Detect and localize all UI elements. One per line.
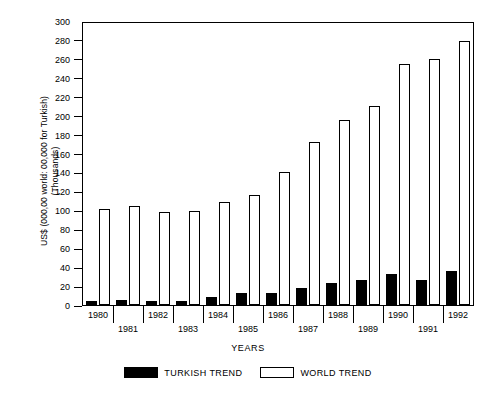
y-axis-tick-label: 120 bbox=[44, 188, 70, 197]
y-axis-tick bbox=[74, 135, 82, 136]
x-axis-label-1980: 1980 bbox=[78, 310, 118, 320]
bars-layer bbox=[83, 23, 473, 305]
x-axis-label-1989: 1989 bbox=[348, 324, 388, 334]
y-axis-tick-label: 300 bbox=[44, 18, 70, 27]
bar-turkish-1983 bbox=[176, 301, 188, 305]
x-axis-label-1987: 1987 bbox=[288, 324, 328, 334]
bar-turkish-1982 bbox=[146, 301, 158, 305]
bar-world-1986 bbox=[279, 172, 291, 305]
x-axis-label-1984: 1984 bbox=[198, 310, 238, 320]
bar-turkish-1985 bbox=[236, 293, 248, 305]
bar-world-1989 bbox=[369, 106, 381, 305]
bar-group bbox=[293, 23, 323, 305]
legend-label-world: WORLD TREND bbox=[300, 368, 371, 378]
y-axis-tick-label: 200 bbox=[44, 112, 70, 121]
bar-world-1982 bbox=[159, 212, 171, 305]
bar-turkish-1984 bbox=[206, 297, 218, 305]
y-axis-tick bbox=[74, 40, 82, 41]
bar-world-1980 bbox=[99, 209, 111, 305]
y-axis-tick-label: 140 bbox=[44, 169, 70, 178]
y-axis-tick bbox=[74, 230, 82, 231]
x-axis-label-1981: 1981 bbox=[108, 324, 148, 334]
y-axis-tick-label: 20 bbox=[44, 283, 70, 292]
bar-turkish-1991 bbox=[416, 280, 428, 305]
bar-group bbox=[413, 23, 443, 305]
bar-turkish-1980 bbox=[86, 301, 98, 305]
x-axis-label-1985: 1985 bbox=[228, 324, 268, 334]
legend-item-world-trend: WORLD TREND bbox=[260, 367, 371, 378]
bar-world-1992 bbox=[459, 41, 471, 305]
bar-group bbox=[83, 23, 113, 305]
legend-swatch-turkish-icon bbox=[124, 367, 158, 378]
chart-legend: TURKISH TREND WORLD TREND bbox=[0, 367, 496, 378]
bar-turkish-1989 bbox=[356, 280, 368, 305]
y-axis-tick-label: 260 bbox=[44, 55, 70, 64]
y-axis-tick-label: 280 bbox=[44, 36, 70, 45]
bar-turkish-1987 bbox=[296, 288, 308, 305]
bar-turkish-1981 bbox=[116, 300, 128, 305]
x-axis-label-1983: 1983 bbox=[168, 324, 208, 334]
x-axis-label-1982: 1982 bbox=[138, 310, 178, 320]
y-axis-tick-label: 0 bbox=[44, 302, 70, 311]
y-axis-tick-label: 220 bbox=[44, 93, 70, 102]
legend-label-turkish: TURKISH TREND bbox=[164, 368, 242, 378]
x-axis-label-1991: 1991 bbox=[408, 324, 448, 334]
bar-group bbox=[173, 23, 203, 305]
x-axis-label-1990: 1990 bbox=[378, 310, 418, 320]
y-axis-tick-label: 40 bbox=[44, 264, 70, 273]
bar-group bbox=[143, 23, 173, 305]
x-axis-label-1988: 1988 bbox=[318, 310, 358, 320]
y-axis-tick bbox=[74, 97, 82, 98]
y-axis-tick bbox=[74, 211, 82, 212]
legend-item-turkish-trend: TURKISH TREND bbox=[124, 367, 242, 378]
y-axis-tick bbox=[74, 59, 82, 60]
y-axis-tick-label: 180 bbox=[44, 131, 70, 140]
x-axis-title: YEARS bbox=[0, 343, 496, 353]
bar-world-1985 bbox=[249, 195, 261, 305]
bar-turkish-1986 bbox=[266, 293, 278, 305]
y-axis-tick-label: 100 bbox=[44, 207, 70, 216]
bar-group bbox=[323, 23, 353, 305]
y-axis-tick bbox=[74, 268, 82, 269]
bar-world-1990 bbox=[399, 64, 411, 305]
bar-group bbox=[233, 23, 263, 305]
x-axis-label-1992: 1992 bbox=[438, 310, 478, 320]
y-axis-tick-label: 80 bbox=[44, 226, 70, 235]
bar-world-1983 bbox=[189, 211, 201, 305]
y-axis-tick bbox=[74, 154, 82, 155]
bar-world-1991 bbox=[429, 59, 441, 305]
bar-world-1987 bbox=[309, 142, 321, 305]
bar-group bbox=[263, 23, 293, 305]
bar-group bbox=[443, 23, 473, 305]
bar-group bbox=[203, 23, 233, 305]
bar-group bbox=[353, 23, 383, 305]
bar-group bbox=[383, 23, 413, 305]
bar-world-1984 bbox=[219, 202, 231, 305]
y-axis-tick bbox=[74, 78, 82, 79]
y-axis-tick-label: 240 bbox=[44, 74, 70, 83]
bar-group bbox=[113, 23, 143, 305]
y-axis-tick bbox=[74, 306, 82, 307]
bar-world-1988 bbox=[339, 120, 351, 305]
y-axis-tick-label: 60 bbox=[44, 245, 70, 254]
y-axis-tick bbox=[74, 249, 82, 250]
bar-turkish-1990 bbox=[386, 274, 398, 305]
y-axis-tick bbox=[74, 192, 82, 193]
y-axis-tick bbox=[74, 173, 82, 174]
y-axis-tick bbox=[74, 116, 82, 117]
bar-turkish-1988 bbox=[326, 283, 338, 305]
y-axis-tick bbox=[74, 287, 82, 288]
bar-chart: US$ (000,00 world: 00,000 for Turkish) (… bbox=[0, 0, 496, 402]
bar-world-1981 bbox=[129, 206, 141, 305]
bar-turkish-1992 bbox=[446, 271, 458, 305]
x-axis-label-1986: 1986 bbox=[258, 310, 298, 320]
legend-swatch-world-icon bbox=[260, 367, 294, 378]
y-axis-tick-label: 160 bbox=[44, 150, 70, 159]
